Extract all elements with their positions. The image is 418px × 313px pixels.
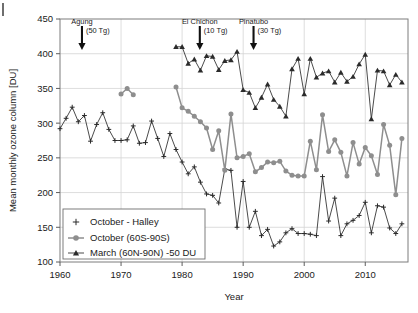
arrow-head [78, 43, 85, 50]
data-point-october-60s90s [222, 168, 227, 173]
data-point-march-60n90n [301, 91, 307, 96]
data-point-march-60n90n [326, 68, 332, 73]
data-point-october-60s90s [204, 126, 209, 131]
data-point-march-60n90n [308, 56, 314, 61]
data-point-march-60n90n [289, 66, 295, 71]
annotation-name: El Chichon [182, 17, 218, 26]
data-point-october-60s90s [216, 128, 221, 133]
legend-label-2: March (60N-90N) -50 DU [90, 247, 196, 258]
data-point-october-60s90s [369, 153, 374, 158]
data-point-october-60s90s [308, 139, 313, 144]
data-point-march-60n90n [314, 75, 320, 80]
x-tick-label: 2000 [294, 269, 315, 280]
data-point-october-60s90s [314, 167, 319, 172]
data-point-october-60s90s [119, 91, 124, 96]
series-line-october-60s90s [176, 87, 402, 195]
data-point-october-60s90s [393, 192, 398, 197]
data-point-october-60s90s [351, 140, 356, 145]
data-point-march-60n90n [240, 87, 246, 92]
data-point-march-60n90n [271, 97, 277, 102]
annotation-pinatubo: Pinatubo(30 Tg) [239, 17, 281, 50]
annotation-el-chichon: El Chichon(10 Tg) [182, 17, 228, 50]
data-point-march-60n90n [185, 61, 191, 66]
data-point-october-60s90s [131, 92, 136, 97]
data-point-october-60s90s [253, 169, 258, 174]
data-point-october-60s90s [198, 119, 203, 124]
data-point-march-60n90n [393, 72, 399, 77]
x-tick-label: 1970 [110, 269, 131, 280]
data-point-october-60s90s [235, 155, 240, 160]
data-point-october-60s90s [259, 165, 264, 170]
data-point-march-60n90n [387, 82, 393, 87]
data-point-october-60s90s [283, 169, 288, 174]
data-point-october-60s90s [290, 173, 295, 178]
data-point-october-60s90s [277, 159, 282, 164]
data-point-march-60n90n [320, 70, 326, 75]
legend-label-1: October (60S-90S) [90, 232, 170, 243]
data-point-october-60s90s [174, 85, 179, 90]
data-point-october-60s90s [265, 160, 270, 165]
data-point-march-60n90n [265, 82, 271, 87]
data-point-october-60s90s [180, 105, 185, 110]
arrow-head [250, 43, 257, 50]
data-point-march-60n90n [234, 49, 240, 54]
data-point-march-60n90n [228, 57, 234, 62]
annotation-agung: Agung(50 Tg) [71, 17, 109, 50]
data-point-october-60s90s [326, 149, 331, 154]
annotation-mass: (30 Tg) [258, 26, 282, 35]
y-tick-label: 350 [37, 83, 53, 94]
data-point-october-60s90s [192, 114, 197, 119]
data-point-march-60n90n [246, 90, 252, 95]
data-point-october-60s90s [247, 151, 252, 156]
data-point-october-60s90s [320, 112, 325, 117]
y-axis-title: Mean monthly ozone column [DU] [7, 69, 18, 212]
data-point-october-60s90s [296, 173, 301, 178]
data-point-march-60n90n [375, 68, 381, 73]
data-point-october-60s90s [332, 137, 337, 142]
data-point-october-60s90s [399, 136, 404, 141]
data-point-march-60n90n [259, 95, 265, 100]
data-point-october-60s90s [241, 154, 246, 159]
x-tick-label: 2010 [355, 269, 376, 280]
annotation-mass: (50 Tg) [86, 26, 110, 35]
x-tick-label: 1960 [49, 269, 70, 280]
x-tick-label: 1980 [172, 269, 193, 280]
x-tick-label: 1990 [233, 269, 254, 280]
data-point-march-60n90n [198, 68, 204, 73]
data-point-march-60n90n [192, 57, 198, 62]
data-point-october-60s90s [375, 172, 380, 177]
data-point-march-60n90n [332, 80, 338, 85]
data-point-october-60s90s [338, 150, 343, 155]
series-line-march-60n90n [176, 47, 402, 119]
y-tick-label: 150 [37, 222, 53, 233]
x-axis-title: Year [224, 291, 243, 302]
data-point-march-60n90n [338, 70, 344, 75]
annotation-name: Agung [71, 17, 92, 26]
y-tick-label: 450 [37, 13, 53, 24]
arrow-head [196, 43, 203, 50]
data-point-march-60n90n [253, 105, 259, 110]
ozone-timeseries-chart: 1001502002503003504004501960197019801990… [0, 0, 418, 313]
annotation-mass: (10 Tg) [204, 26, 228, 35]
data-point-march-60n90n [362, 52, 368, 57]
data-point-march-60n90n [216, 67, 222, 72]
data-point-october-60s90s [363, 145, 368, 150]
legend-marker-circle [73, 235, 79, 241]
data-point-october-60s90s [186, 109, 191, 114]
data-point-march-60n90n [356, 61, 362, 66]
data-point-october-60s90s [271, 160, 276, 165]
y-tick-label: 400 [37, 48, 53, 59]
y-tick-label: 100 [37, 256, 53, 267]
data-point-october-60s90s [387, 143, 392, 148]
data-point-october-60s90s [381, 122, 386, 127]
y-tick-label: 300 [37, 118, 53, 129]
data-point-october-60s90s [302, 173, 307, 178]
figure-container: 1001502002503003504004501960197019801990… [0, 0, 418, 313]
data-point-march-60n90n [369, 116, 375, 121]
data-point-october-60s90s [210, 147, 215, 152]
legend-label-0: October - Halley [90, 216, 159, 227]
data-point-october-60s90s [357, 162, 362, 167]
data-point-march-60n90n [350, 74, 356, 79]
data-point-march-60n90n [283, 114, 289, 119]
data-point-october-60s90s [125, 86, 130, 91]
